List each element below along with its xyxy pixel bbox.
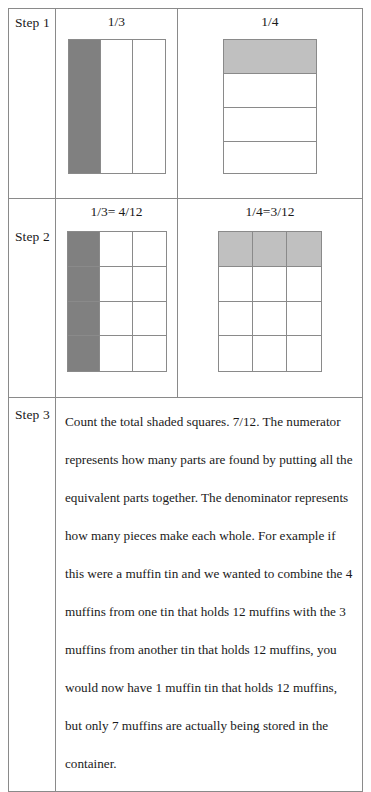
step3-label: Step 3 [9,398,55,423]
step2-fourth-grid-wrap [178,223,362,372]
grid-cell-shaded [219,232,253,267]
grid-cell-empty [219,267,253,302]
step2-fourth-header: 1/4=3/12 [178,199,362,223]
bar-part-empty [224,74,316,108]
bar-part-empty [101,40,133,173]
step3-label-cell: Step 3 [9,398,56,792]
step2-third-cell: 1/3= 4/12 [56,199,178,398]
grid-cell-empty [287,267,321,302]
step1-label: Step 1 [9,9,55,31]
step1-fourth-header: 1/4 [178,9,362,33]
step1-label-cell: Step 1 [9,9,56,199]
grid-cell-shaded [253,232,287,267]
grid-cell-shaded [68,336,101,371]
step1-fourth-diagram-wrap [178,33,362,174]
grid-cell-shaded [287,232,321,267]
grid-cell-empty [100,336,133,371]
bar-part-empty [224,142,316,173]
bar-part-shaded [69,40,101,173]
table-row-step1: Step 1 1/3 1/4 [9,9,363,199]
fraction-grid-four-twelfths [67,231,167,372]
grid-cell-empty [253,336,287,371]
fraction-bar-one-third [68,39,166,174]
step3-text-cell: Count the total shaded squares. 7/12. Th… [56,398,363,792]
grid-cell-empty [287,302,321,337]
grid-cell-empty [253,267,287,302]
grid-cell-empty [133,232,166,267]
grid-cell-empty [100,267,133,302]
step1-third-header: 1/3 [56,9,177,33]
bar-part-shaded [224,40,316,74]
equivalent-fractions-table: Step 1 1/3 1/4 [8,8,363,792]
bar-part-empty [224,108,316,142]
step2-label: Step 2 [9,199,55,245]
grid-cell-empty [219,302,253,337]
grid-cell-empty [133,336,166,371]
grid-cell-shaded [68,302,101,337]
grid-cell-empty [133,267,166,302]
fraction-grid-three-twelfths [218,231,322,372]
step2-third-header: 1/3= 4/12 [56,199,177,223]
grid-cell-empty [100,302,133,337]
step1-third-diagram-wrap [56,33,177,174]
grid-cell-empty [133,302,166,337]
step1-fourth-cell: 1/4 [178,9,363,199]
grid-cell-empty [287,336,321,371]
fraction-bar-one-fourth [223,39,317,174]
bar-part-empty [133,40,164,173]
grid-cell-shaded [68,267,101,302]
grid-cell-empty [253,302,287,337]
grid-cell-empty [219,336,253,371]
step1-third-cell: 1/3 [56,9,178,199]
table-row-step3: Step 3 Count the total shaded squares. 7… [9,398,363,792]
step2-third-grid-wrap [56,223,177,372]
table-row-step2: Step 2 1/3= 4/12 [9,199,363,398]
grid-cell-empty [100,232,133,267]
step2-fourth-cell: 1/4=3/12 [178,199,363,398]
grid-cell-shaded [68,232,101,267]
step2-label-cell: Step 2 [9,199,56,398]
step3-explanation-paragraph: Count the total shaded squares. 7/12. Th… [56,398,362,791]
